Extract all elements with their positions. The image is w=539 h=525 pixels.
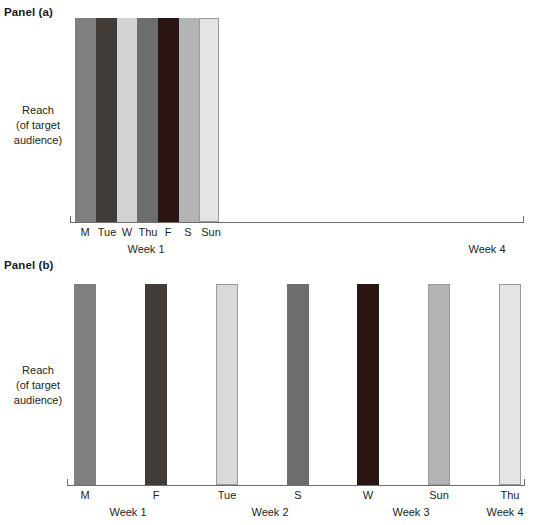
panel-a-tick-w: W	[122, 226, 132, 238]
panel-b-bar-m	[74, 284, 96, 485]
panel-b-bar-thu	[499, 284, 521, 485]
panel-b-x-axis-left-cap	[67, 479, 68, 486]
panel-b-tick-tue: Tue	[218, 489, 237, 501]
panel-b-y-axis-label-line-2: (of target	[6, 378, 70, 393]
panel-a-tick-s: S	[184, 226, 191, 238]
panel-a-x-axis-line	[70, 222, 524, 223]
panel-a-bar-thu	[137, 18, 158, 222]
panel-a-bar-f	[158, 18, 179, 222]
panel-a-bar-sun	[199, 18, 219, 222]
panel-b-y-axis-label: Reach (of target audience)	[6, 363, 70, 408]
panel-a-x-axis-left-cap	[70, 216, 71, 223]
panel-a-bar-s	[179, 18, 199, 222]
panel-b-week-3: Week 3	[392, 506, 429, 518]
panel-a-tick-thu: Thu	[139, 226, 158, 238]
panel-a-tick-tue: Tue	[98, 226, 117, 238]
panel-b-week-2: Week 2	[251, 506, 288, 518]
panel-a-tick-f: F	[165, 226, 172, 238]
panel-b-tick-m: M	[80, 489, 89, 501]
panel-a-y-axis-label-line-2: (of target	[6, 118, 70, 133]
panel-b-tick-sun: Sun	[429, 489, 449, 501]
panel-b-x-axis-right-cap	[524, 479, 525, 486]
panel-b-tick-thu: Thu	[501, 489, 520, 501]
panel-b-title: Panel (b)	[4, 259, 53, 271]
panel-b-x-axis-line	[67, 485, 525, 486]
panel-b-bar-w	[357, 284, 379, 485]
panel-b-tick-w: W	[363, 489, 373, 501]
panel-b-bar-sun	[428, 284, 450, 485]
panel-a-week-1: Week 1	[127, 243, 164, 255]
panel-a-bar-m	[75, 18, 96, 222]
panel-a-y-axis-label-line-1: Reach	[6, 103, 70, 118]
panel-a-tick-sun: Sun	[201, 226, 221, 238]
panel-b-tick-s: S	[294, 489, 301, 501]
panel-b-week-4: Week 4	[486, 506, 523, 518]
panel-a-bar-w	[117, 18, 137, 222]
panel-b-y-axis-label-line-3: audience)	[6, 393, 70, 408]
panel-a-x-axis-right-cap	[523, 216, 524, 223]
panel-a-y-axis-label-line-3: audience)	[6, 133, 70, 148]
panel-b-bar-tue	[216, 284, 238, 485]
panel-a-y-axis-label: Reach (of target audience)	[6, 103, 70, 148]
panel-a-tick-m: M	[80, 226, 89, 238]
panel-b-week-1: Week 1	[109, 506, 146, 518]
panel-a-week-4: Week 4	[468, 243, 505, 255]
panel-b-bar-s	[287, 284, 309, 485]
panel-a-bar-tue	[96, 18, 117, 222]
panel-b-y-axis-label-line-1: Reach	[6, 363, 70, 378]
panel-b-bar-f	[145, 284, 167, 485]
panel-b-tick-f: F	[153, 489, 160, 501]
panel-a-title: Panel (a)	[4, 6, 53, 18]
